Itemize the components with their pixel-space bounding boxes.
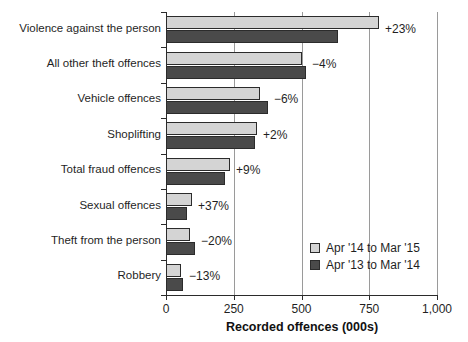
bar-apr13-mar14 — [166, 278, 183, 291]
bar-apr13-mar14 — [166, 101, 268, 114]
legend-swatch-dark-icon — [310, 260, 320, 270]
y-axis-tick — [161, 83, 166, 84]
x-axis-tick — [166, 295, 167, 300]
legend-label: Apr '13 to Mar '14 — [326, 258, 420, 272]
x-axis-tick-label: 750 — [359, 302, 379, 316]
y-axis-tick — [161, 260, 166, 261]
x-axis-tick-label: 0 — [163, 302, 170, 316]
change-label: +23% — [385, 22, 416, 36]
bar-apr13-mar14 — [166, 30, 338, 43]
x-axis-tick — [234, 295, 235, 300]
legend: Apr '14 to Mar '15 Apr '13 to Mar '14 — [310, 239, 420, 273]
bar-apr13-mar14 — [166, 66, 306, 79]
bar-apr14-mar15 — [166, 16, 379, 29]
bar-apr14-mar15 — [166, 193, 192, 206]
x-axis-tick-label: 250 — [224, 302, 244, 316]
bar-apr13-mar14 — [166, 136, 255, 149]
category-label: All other theft offences — [0, 57, 161, 69]
x-axis-tick — [302, 295, 303, 300]
category-label: Total fraud offences — [0, 163, 161, 175]
bar-apr13-mar14 — [166, 207, 187, 220]
bar-apr13-mar14 — [166, 172, 225, 185]
y-axis-tick — [161, 118, 166, 119]
x-axis-tick — [437, 295, 438, 300]
x-axis-title: Recorded offences (000s) — [166, 320, 438, 334]
bar-apr13-mar14 — [166, 242, 195, 255]
bar-apr14-mar15 — [166, 87, 260, 100]
category-label: Violence against the person — [0, 22, 161, 34]
change-label: −13% — [189, 269, 220, 283]
change-label: +37% — [198, 199, 229, 213]
y-axis-tick — [161, 154, 166, 155]
legend-item-apr13-mar14[interactable]: Apr '13 to Mar '14 — [310, 256, 420, 273]
x-axis-tick — [369, 295, 370, 300]
bar-apr14-mar15 — [166, 264, 181, 277]
category-label: Theft from the person — [0, 234, 161, 246]
x-axis-tick-label: 500 — [291, 302, 311, 316]
category-label: Shoplifting — [0, 128, 161, 140]
change-label: +9% — [236, 163, 260, 177]
bar-chart: Violence against the person+23%All other… — [0, 0, 468, 342]
bar-apr14-mar15 — [166, 228, 190, 241]
y-axis-tick — [161, 224, 166, 225]
bar-apr14-mar15 — [166, 52, 302, 65]
y-axis-tick — [161, 189, 166, 190]
legend-label: Apr '14 to Mar '15 — [326, 241, 420, 255]
change-label: +2% — [263, 128, 287, 142]
bar-apr14-mar15 — [166, 122, 257, 135]
legend-item-apr14-mar15[interactable]: Apr '14 to Mar '15 — [310, 239, 420, 256]
change-label: −20% — [201, 234, 232, 248]
y-axis-tick — [161, 12, 166, 13]
y-axis-tick — [161, 47, 166, 48]
category-label: Vehicle offences — [0, 92, 161, 104]
category-label: Robbery — [0, 269, 161, 281]
x-axis-tick-label: 1,000 — [422, 302, 452, 316]
legend-swatch-light-icon — [310, 243, 320, 253]
change-label: −6% — [274, 92, 298, 106]
change-label: −4% — [312, 57, 336, 71]
bar-apr14-mar15 — [166, 158, 230, 171]
gridline-1000 — [437, 12, 438, 295]
category-label: Sexual offences — [0, 199, 161, 211]
